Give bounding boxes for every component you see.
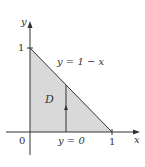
diagram-region-d: y 1 y = 1 − x D 0 y = 0 1 x bbox=[0, 0, 145, 167]
bottom-boundary-label: y = 0 bbox=[58, 136, 85, 146]
curve-label: y = 1 − x bbox=[57, 57, 104, 67]
x-axis-label: x bbox=[134, 135, 140, 145]
y-axis-arrow-icon bbox=[28, 21, 33, 28]
origin-label: 0 bbox=[19, 136, 25, 146]
region-label: D bbox=[45, 94, 54, 105]
y-axis-label: y bbox=[21, 17, 27, 27]
y-tick-label-1: 1 bbox=[18, 43, 24, 53]
x-tick-label-1: 1 bbox=[109, 137, 115, 147]
